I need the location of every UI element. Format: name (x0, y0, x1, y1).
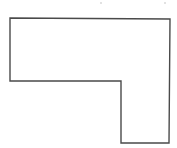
l-shaped-polygon (10, 18, 170, 143)
diagram-canvas (0, 0, 177, 148)
scan-speck (164, 2, 166, 4)
scan-speck (100, 2, 102, 4)
